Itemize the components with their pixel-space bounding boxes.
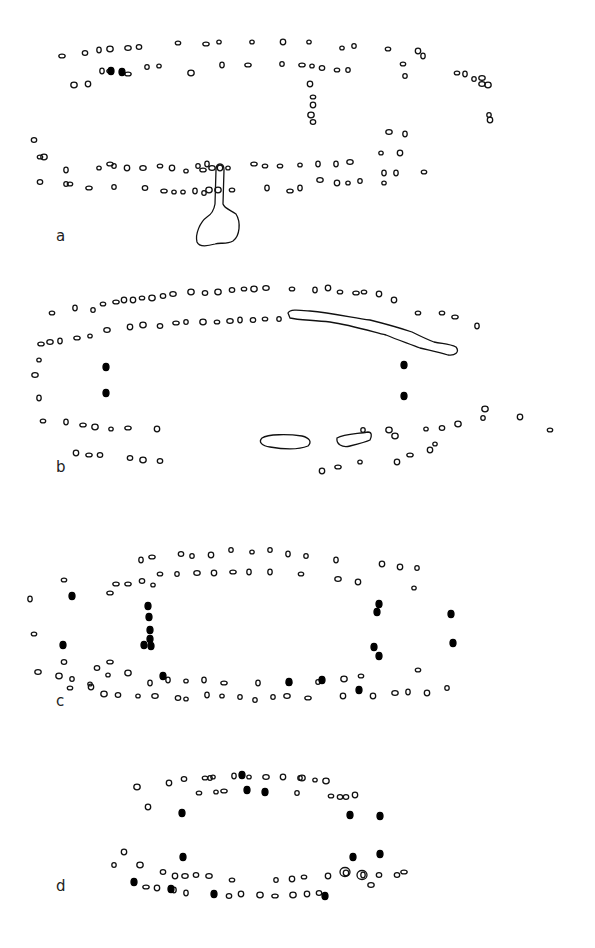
posthole [386,130,392,135]
posthole [250,40,254,44]
posthole [208,552,213,558]
posthole [229,548,233,553]
posthole [181,777,186,782]
posthole [173,321,179,325]
filled-posthole [146,613,152,620]
filled-posthole [371,643,377,650]
filled-posthole [244,786,250,793]
filled-posthole [103,389,109,396]
posthole [211,570,216,576]
posthole [245,63,251,67]
posthole [61,578,66,582]
posthole [125,46,131,51]
posthole [287,189,293,193]
posthole [262,317,267,321]
filled-posthole [347,811,353,818]
posthole [361,428,365,433]
posthole [313,778,317,782]
posthole [148,680,152,686]
posthole [352,792,357,798]
posthole [310,102,315,108]
posthole [415,566,419,571]
building-plan-b: b [32,285,553,476]
posthole [340,46,344,50]
filled-posthole [376,652,382,659]
posthole [328,794,333,798]
posthole [341,676,347,682]
filled-posthole [377,850,383,857]
posthole [152,694,158,699]
posthole [209,166,215,171]
posthole [479,76,485,81]
posthole [184,697,188,701]
building-plan-d: d [56,771,407,899]
posthole [109,427,113,431]
posthole [97,47,101,53]
posthole [125,426,131,430]
posthole [112,185,116,190]
posthole [424,690,429,696]
filled-posthole [448,610,454,617]
posthole [412,586,416,590]
posthole [325,873,330,879]
posthole [220,62,224,68]
posthole [319,66,324,71]
posthole [91,308,95,313]
filled-posthole [377,812,383,819]
posthole [406,689,410,695]
posthole [379,151,383,155]
posthole [151,583,155,587]
posthole [274,878,278,883]
filled-posthole [103,363,109,370]
posthole [61,660,66,665]
posthole [214,320,219,324]
posthole [391,297,396,303]
posthole [86,453,92,457]
filled-posthole [450,639,456,646]
filled-posthole [350,853,356,860]
posthole [49,311,54,315]
posthole [454,71,459,75]
posthole [184,679,188,683]
posthole [112,863,116,868]
posthole [340,693,345,699]
posthole [115,693,120,698]
filled-posthole [160,672,166,679]
posthole [427,447,432,453]
posthole [337,290,342,294]
posthole [82,51,87,56]
filled-posthole [60,641,66,648]
posthole [194,571,200,576]
posthole [472,77,476,82]
posthole [125,72,131,76]
posthole [32,373,38,378]
filled-posthole [145,602,151,609]
long-slot [288,310,457,355]
posthole [226,166,230,170]
posthole [220,694,224,698]
posthole [256,680,260,686]
posthole [347,160,353,165]
posthole [262,164,267,168]
posthole [37,180,42,185]
posthole [172,873,177,879]
posthole [106,673,110,677]
posthole [166,780,171,786]
posthole [193,188,197,194]
posthole [139,296,144,300]
posthole [140,457,146,463]
posthole [316,891,321,896]
posthole [415,48,420,54]
posthole [140,322,146,328]
posthole [334,180,339,186]
posthole [74,336,80,340]
posthole [421,53,425,59]
posthole [64,419,68,425]
posthole [86,186,92,190]
posthole [154,426,159,432]
filled-posthole [147,635,153,642]
posthole [229,878,234,882]
posthole [263,286,269,291]
posthole [169,165,174,171]
posthole [184,169,188,173]
